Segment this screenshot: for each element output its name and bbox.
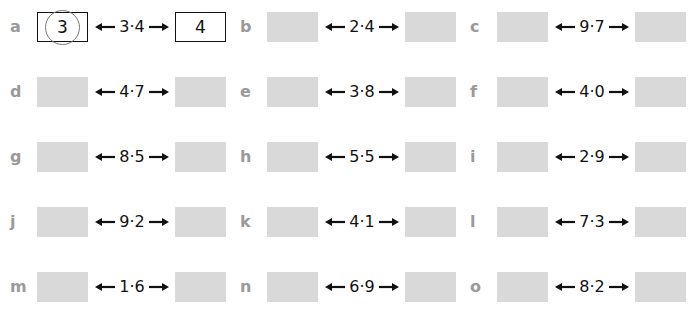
item-letter: f	[470, 81, 490, 103]
arrow-left-icon	[555, 211, 575, 233]
arrow-left-icon	[95, 81, 115, 103]
arrow-right-icon	[379, 211, 399, 233]
exercise-item-k: k 4·1	[230, 207, 460, 239]
exercise-item-e: e 3·8	[230, 77, 460, 109]
exercise-item-o: o 8·2	[460, 272, 690, 304]
number-with-arrows: 9·2	[92, 211, 172, 233]
upper-answer-box[interactable]	[405, 77, 456, 107]
upper-answer-box[interactable]	[405, 207, 456, 237]
exercise-item-g: g 8·5	[0, 142, 230, 174]
exercise-item-j: j 9·2	[0, 207, 230, 239]
exercise-item-l: l 7·3	[460, 207, 690, 239]
upper-answer-box[interactable]	[175, 272, 226, 302]
item-letter: d	[10, 81, 30, 103]
arrow-left-icon	[325, 146, 345, 168]
arrow-right-icon	[149, 16, 169, 38]
item-letter: o	[470, 276, 490, 298]
upper-answer-box[interactable]: 4	[175, 12, 226, 42]
number-with-arrows: 8·5	[92, 146, 172, 168]
lower-answer-box[interactable]	[497, 142, 548, 172]
number-with-arrows: 4·0	[552, 81, 632, 103]
lower-answer-box[interactable]	[37, 77, 88, 107]
upper-answer-box[interactable]	[635, 12, 686, 42]
number-with-arrows: 4·1	[322, 211, 402, 233]
arrow-right-icon	[609, 146, 629, 168]
arrow-left-icon	[555, 16, 575, 38]
decimal-number: 9·7	[575, 16, 608, 38]
arrow-left-icon	[95, 146, 115, 168]
arrow-right-icon	[379, 276, 399, 298]
lower-answer-box[interactable]	[497, 207, 548, 237]
arrow-right-icon	[149, 146, 169, 168]
upper-answer-box[interactable]	[175, 142, 226, 172]
decimal-number: 4·1	[345, 211, 378, 233]
exercise-item-i: i 2·9	[460, 142, 690, 174]
number-with-arrows: 9·7	[552, 16, 632, 38]
decimal-number: 9·2	[115, 211, 148, 233]
decimal-number: 8·2	[575, 276, 608, 298]
exercise-item-d: d 4·7	[0, 77, 230, 109]
decimal-number: 3·4	[115, 16, 148, 38]
circled-answer-mark	[45, 10, 80, 45]
upper-answer-box[interactable]	[175, 207, 226, 237]
arrow-right-icon	[609, 81, 629, 103]
arrow-left-icon	[325, 211, 345, 233]
lower-answer-box[interactable]	[37, 272, 88, 302]
arrow-left-icon	[325, 16, 345, 38]
number-with-arrows: 3·8	[322, 81, 402, 103]
arrow-left-icon	[555, 276, 575, 298]
decimal-number: 2·4	[345, 16, 378, 38]
decimal-number: 4·7	[115, 81, 148, 103]
decimal-number: 2·9	[575, 146, 608, 168]
exercise-item-m: m 1·6	[0, 272, 230, 304]
upper-answer-value: 4	[176, 16, 225, 38]
arrow-right-icon	[149, 211, 169, 233]
upper-answer-box[interactable]	[635, 272, 686, 302]
arrow-left-icon	[555, 146, 575, 168]
decimal-number: 5·5	[345, 146, 378, 168]
decimal-number: 4·0	[575, 81, 608, 103]
item-letter: m	[10, 276, 30, 298]
item-letter: l	[470, 211, 490, 233]
arrow-right-icon	[609, 276, 629, 298]
arrow-right-icon	[379, 16, 399, 38]
lower-answer-box[interactable]	[267, 272, 318, 302]
arrow-right-icon	[379, 81, 399, 103]
exercise-item-f: f 4·0	[460, 77, 690, 109]
lower-answer-box[interactable]	[37, 207, 88, 237]
upper-answer-box[interactable]	[635, 77, 686, 107]
lower-answer-box[interactable]	[37, 142, 88, 172]
lower-answer-box[interactable]: 3	[37, 12, 88, 42]
lower-answer-box[interactable]	[497, 77, 548, 107]
number-with-arrows: 5·5	[322, 146, 402, 168]
upper-answer-box[interactable]	[405, 12, 456, 42]
number-with-arrows: 3·4	[92, 16, 172, 38]
decimal-number: 7·3	[575, 211, 608, 233]
arrow-left-icon	[95, 16, 115, 38]
lower-answer-box[interactable]	[267, 142, 318, 172]
lower-answer-box[interactable]	[497, 272, 548, 302]
item-letter: j	[10, 211, 30, 233]
arrow-left-icon	[325, 276, 345, 298]
decimal-number: 3·8	[345, 81, 378, 103]
lower-answer-box[interactable]	[267, 12, 318, 42]
lower-answer-box[interactable]	[267, 77, 318, 107]
number-with-arrows: 1·6	[92, 276, 172, 298]
arrow-left-icon	[95, 211, 115, 233]
lower-answer-box[interactable]	[497, 12, 548, 42]
number-with-arrows: 2·9	[552, 146, 632, 168]
item-letter: n	[240, 276, 260, 298]
upper-answer-box[interactable]	[405, 272, 456, 302]
number-with-arrows: 4·7	[92, 81, 172, 103]
lower-answer-box[interactable]	[267, 207, 318, 237]
arrow-right-icon	[609, 16, 629, 38]
upper-answer-box[interactable]	[175, 77, 226, 107]
upper-answer-box[interactable]	[405, 142, 456, 172]
item-letter: k	[240, 211, 260, 233]
upper-answer-box[interactable]	[635, 207, 686, 237]
item-letter: a	[10, 16, 30, 38]
number-with-arrows: 8·2	[552, 276, 632, 298]
arrow-left-icon	[325, 81, 345, 103]
exercise-item-b: b 2·4	[230, 12, 460, 44]
upper-answer-box[interactable]	[635, 142, 686, 172]
